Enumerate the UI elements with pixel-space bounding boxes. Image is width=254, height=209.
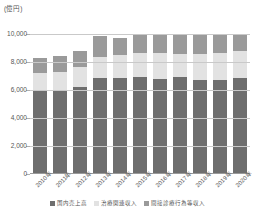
- gridline: [30, 34, 250, 35]
- legend-swatch: [94, 201, 99, 206]
- legend-item[interactable]: 治療関連収入: [94, 199, 137, 207]
- bar-segment: [193, 34, 207, 54]
- x-axis-label-wrap: 2010年: [33, 175, 47, 197]
- x-axis-label-wrap: 2013年: [93, 175, 107, 197]
- bar-segment: [153, 79, 167, 174]
- x-axis-label-wrap: 2019年: [213, 175, 227, 197]
- bar-column: [153, 34, 167, 174]
- legend-label: 治療関連収入: [101, 199, 137, 207]
- bar-segment: [153, 34, 167, 53]
- bar-segment: [33, 90, 47, 174]
- x-axis-label-wrap: 2017年: [173, 175, 187, 197]
- bar-segment: [193, 80, 207, 174]
- legend-item[interactable]: 国内売上高: [50, 199, 87, 207]
- gridline: [30, 90, 250, 91]
- bar-segment: [173, 77, 187, 174]
- x-axis-label-wrap: 2014年: [113, 175, 127, 197]
- bar-segment: [193, 54, 207, 80]
- y-axis-tick-label: 10,000: [1, 30, 27, 37]
- bar-segment: [33, 73, 47, 91]
- gridline: [30, 146, 250, 147]
- x-axis-label-wrap: 2018年: [193, 175, 207, 197]
- bar-segment: [233, 51, 247, 78]
- bar-segment: [213, 34, 227, 53]
- bar-segment: [33, 58, 47, 73]
- y-axis-tick-label: 8,000: [1, 58, 27, 65]
- bar-column: [73, 34, 87, 174]
- chart-legend: 国内売上高治療関連収入間接診療行為等収入: [0, 199, 254, 209]
- x-axis-label-wrap: 2020年: [233, 175, 247, 197]
- bar-segment: [113, 78, 127, 174]
- bar-segment: [93, 36, 107, 57]
- y-axis-unit-label: (億円): [4, 3, 22, 13]
- bar-column: [113, 34, 127, 174]
- bar-segment: [153, 53, 167, 79]
- bar-segment: [73, 67, 87, 87]
- bar-segment: [113, 38, 127, 55]
- bar-column: [93, 34, 107, 174]
- bar-segment: [133, 77, 147, 174]
- legend-label: 国内売上高: [57, 199, 87, 207]
- bar-column: [193, 34, 207, 174]
- x-axis-label-wrap: 2016年: [153, 175, 167, 197]
- bar-segment: [133, 34, 147, 52]
- bar-segment: [133, 53, 147, 78]
- bar-segment: [233, 78, 247, 174]
- gridline: [30, 62, 250, 63]
- y-axis-tick-label: 0: [1, 170, 27, 177]
- stacked-bar-chart: (億円) 02,0004,0006,0008,00010,000 2010年20…: [0, 0, 254, 209]
- legend-swatch: [50, 201, 55, 206]
- bar-group: [30, 34, 250, 174]
- bar-column: [53, 34, 67, 174]
- plot-area: 02,0004,0006,0008,00010,000: [30, 34, 250, 174]
- bar-column: [33, 34, 47, 174]
- x-axis-label-wrap: 2015年: [133, 175, 147, 197]
- bar-column: [233, 34, 247, 174]
- y-axis-tick-label: 2,000: [1, 142, 27, 149]
- bar-segment: [53, 72, 67, 90]
- bar-segment: [173, 54, 187, 77]
- bar-segment: [213, 80, 227, 174]
- bar-column: [173, 34, 187, 174]
- bar-segment: [233, 34, 247, 51]
- bar-column: [133, 34, 147, 174]
- bar-segment: [53, 90, 67, 174]
- bar-segment: [93, 57, 107, 78]
- bar-segment: [53, 56, 67, 72]
- y-axis-tick-label: 6,000: [1, 86, 27, 93]
- x-axis-label-wrap: 2012年: [73, 175, 87, 197]
- bar-segment: [93, 78, 107, 174]
- legend-item[interactable]: 間接診療行為等収入: [144, 199, 205, 207]
- bar-column: [213, 34, 227, 174]
- x-axis-label-wrap: 2011年: [53, 175, 67, 197]
- bar-segment: [213, 53, 227, 80]
- bar-segment: [173, 34, 187, 54]
- bar-segment: [73, 87, 87, 174]
- y-axis-tick-label: 4,000: [1, 114, 27, 121]
- x-axis-labels: 2010年2011年2012年2013年2014年2015年2016年2017年…: [30, 175, 250, 197]
- bar-segment: [113, 55, 127, 78]
- bar-segment: [73, 51, 87, 68]
- gridline: [30, 118, 250, 119]
- legend-swatch: [144, 201, 149, 206]
- legend-label: 間接診療行為等収入: [151, 199, 205, 207]
